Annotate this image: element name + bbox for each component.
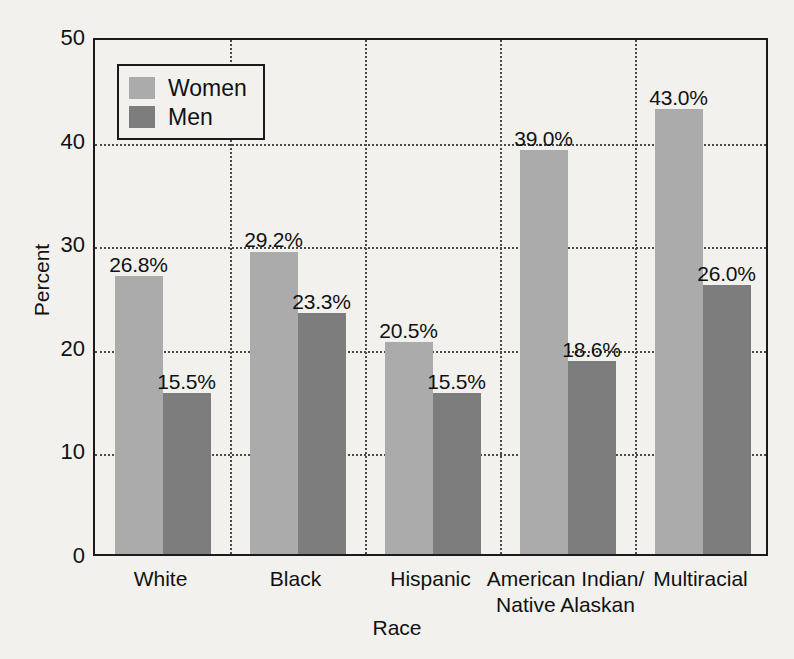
bar-women bbox=[115, 276, 163, 554]
y-axis-tick-label: 0 bbox=[47, 543, 85, 569]
y-axis-tick-label: 10 bbox=[47, 439, 85, 465]
bar-value-label: 15.5% bbox=[427, 370, 486, 394]
bar-women bbox=[250, 252, 298, 555]
x-axis-tick-label: American Indian/Native Alaskan bbox=[487, 566, 645, 618]
legend-item-women: Women bbox=[129, 73, 247, 102]
y-axis-tick-label: 50 bbox=[47, 25, 85, 51]
bar-women bbox=[655, 109, 703, 554]
bar-value-label: 39.0% bbox=[514, 127, 573, 151]
x-axis-tick-label-line: Multiracial bbox=[653, 566, 748, 592]
bar-value-label: 43.0% bbox=[649, 86, 708, 110]
bar-men bbox=[568, 361, 616, 554]
bar-men bbox=[433, 393, 481, 554]
legend-swatch-women-icon bbox=[129, 77, 155, 99]
x-axis-tick-label: Multiracial bbox=[653, 566, 748, 592]
x-axis-tick-label: Hispanic bbox=[390, 566, 471, 592]
legend-label-women: Women bbox=[168, 76, 247, 100]
bar-value-label: 18.6% bbox=[562, 338, 621, 362]
x-axis-title: Race bbox=[0, 616, 794, 640]
group-separator-gridline bbox=[500, 40, 502, 554]
y-axis-title: Percent bbox=[30, 220, 54, 340]
bar-value-label: 20.5% bbox=[379, 319, 438, 343]
bar-value-label: 26.0% bbox=[697, 262, 756, 286]
chart-page: 01020304050 Percent 26.8%15.5%29.2%23.3%… bbox=[0, 0, 794, 659]
bar-women bbox=[520, 150, 568, 554]
bar-men bbox=[298, 313, 346, 554]
x-axis-tick-label-line: American Indian/ bbox=[487, 566, 645, 592]
bar-men bbox=[703, 285, 751, 554]
bar-value-label: 26.8% bbox=[109, 253, 168, 277]
x-axis-tick-label: Black bbox=[270, 566, 321, 592]
group-separator-gridline bbox=[635, 40, 637, 554]
bar-women bbox=[385, 342, 433, 554]
y-axis-tick-label: 40 bbox=[47, 129, 85, 155]
x-axis-tick-label-line: Hispanic bbox=[390, 566, 471, 592]
bar-value-label: 23.3% bbox=[292, 290, 351, 314]
legend-label-men: Men bbox=[168, 105, 213, 129]
x-axis-tick-label-line: Native Alaskan bbox=[487, 592, 645, 618]
legend-swatch-men-icon bbox=[129, 106, 155, 128]
legend: Women Men bbox=[117, 64, 265, 140]
x-axis-tick-label-line: Black bbox=[270, 566, 321, 592]
x-axis-tick-label: White bbox=[134, 566, 188, 592]
bar-value-label: 29.2% bbox=[244, 228, 303, 252]
bar-value-label: 15.5% bbox=[157, 370, 216, 394]
group-separator-gridline bbox=[365, 40, 367, 554]
plot-area: 26.8%15.5%29.2%23.3%20.5%15.5%39.0%18.6%… bbox=[93, 38, 768, 556]
bar-men bbox=[163, 393, 211, 554]
legend-item-men: Men bbox=[129, 102, 247, 131]
x-axis-tick-label-line: White bbox=[134, 566, 188, 592]
